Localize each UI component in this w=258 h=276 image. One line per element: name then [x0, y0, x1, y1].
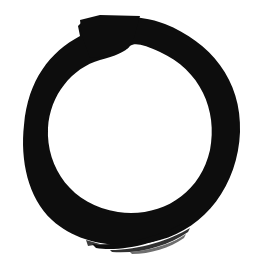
enso-ring: [23, 16, 240, 245]
brush-start-blob: [80, 15, 140, 58]
enso-artwork: [0, 0, 258, 276]
enso-circle-icon: [0, 0, 258, 276]
